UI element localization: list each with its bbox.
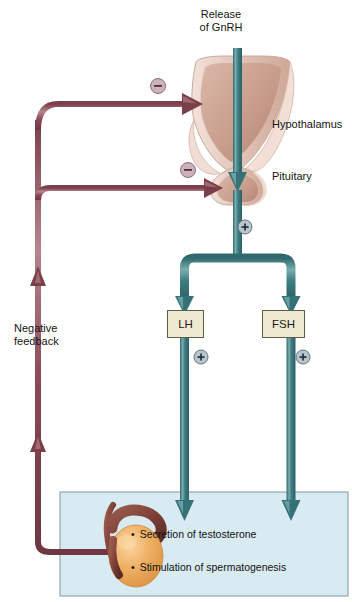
list-item: Secretion of testosterone [131,528,331,541]
fsh-box: FSH [262,310,305,338]
plus-badge-lh [194,350,208,364]
feedback-arrow-pituitary [38,178,223,200]
hypothalamus-label: Hypothalamus [272,118,342,131]
feedback-arrow-hypothalamus [38,93,203,130]
pituitary-label: Pituitary [272,170,312,183]
negative-feedback-label-line1: Negative [14,322,76,335]
fsh-label: FSH [272,318,295,330]
diagram-graphics [0,0,352,602]
gnrh-release-label: Release of GnRH [176,8,266,34]
gnrh-release-label-line1: Release [176,8,266,21]
negative-feedback-label: Negative feedback [14,322,76,348]
lh-label: LH [178,318,193,330]
lh-box: LH [167,310,204,338]
gnrh-release-label-line2: of GnRH [176,21,266,34]
diagram-canvas: Release of GnRH Hypothalamus Pituitary N… [0,0,352,602]
negative-feedback-label-line2: feedback [14,335,76,348]
effects-list: Secretion of testosterone Stimulation of… [131,528,331,594]
list-item: Stimulation of spermatogenesis [131,561,331,574]
plus-badge-fsh [296,350,310,364]
minus-badge-hypothalamus [151,79,166,94]
minus-badge-pituitary [181,163,196,178]
plus-badge-pituitary-output [238,220,252,234]
gonadotropin-branch [185,258,292,300]
